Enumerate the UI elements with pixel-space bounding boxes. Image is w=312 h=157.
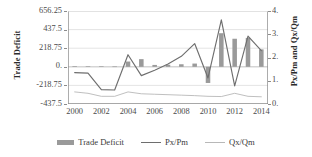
y-axis-left-tick-mark — [64, 85, 67, 86]
legend-bar-swatch — [57, 140, 74, 145]
y-axis-right-tick-mark — [268, 58, 271, 59]
y-axis-right-tick-label: 2. — [272, 52, 290, 61]
legend-line-swatch — [141, 142, 161, 143]
y-axis-left-tick-label: 656.25 — [18, 6, 62, 15]
bar — [219, 33, 224, 67]
x-axis-tick-label: 2010 — [200, 107, 217, 116]
bar — [179, 64, 184, 67]
legend-item-label: Qx/Qm — [229, 137, 255, 147]
y-axis-right-title: Px/Pm and Qx/Qm — [289, 0, 299, 103]
bar — [72, 66, 77, 67]
x-axis-tick-label: 2014 — [253, 107, 270, 116]
y-axis-left-tick-mark — [64, 11, 67, 12]
bar — [232, 39, 237, 67]
legend-item-label: Trade Deficit — [78, 137, 124, 147]
x-axis-tick-label: 2004 — [120, 107, 137, 116]
legend-item[interactable]: Trade Deficit — [57, 137, 124, 147]
y-axis-right-tick-mark — [268, 34, 271, 35]
y-axis-right-tick-mark — [268, 81, 271, 82]
bar — [126, 62, 131, 67]
bar — [152, 65, 157, 67]
y-axis-left-tick-label: 437.5 — [18, 24, 62, 33]
y-axis-right-tick-label: 1. — [272, 75, 290, 84]
bar — [192, 64, 197, 67]
x-axis-tick-label: 2006 — [146, 107, 163, 116]
bar — [112, 66, 117, 67]
bar-series — [72, 33, 263, 83]
chart-container: Trade Deficit Px/Pm and Qx/Qm 656.25437.… — [0, 0, 312, 157]
y-axis-right-tick-label: 3. — [272, 29, 290, 38]
plot-area — [68, 11, 268, 104]
bar — [139, 59, 144, 67]
chart-legend: Trade DeficitPx/PmQx/Qm — [0, 133, 312, 151]
bar — [99, 66, 104, 67]
y-axis-left-tick-label: 0. — [18, 61, 62, 70]
legend-item-label: Px/Pm — [165, 137, 188, 147]
y-axis-left-tick-label: -218.75 — [18, 80, 62, 89]
x-axis-ticks: 20002002200420062008201020122014 — [0, 104, 312, 120]
legend-item[interactable]: Qx/Qm — [205, 137, 255, 147]
line-series — [75, 92, 262, 97]
legend-item[interactable]: Px/Pm — [141, 137, 188, 147]
y-axis-left-tick-mark — [64, 48, 67, 49]
x-axis-tick-label: 2002 — [93, 107, 110, 116]
y-axis-right-tick-label: 4. — [272, 6, 290, 15]
x-axis-tick-label: 2008 — [173, 107, 190, 116]
plot-svg — [68, 11, 268, 104]
y-axis-left-tick-mark — [64, 30, 67, 31]
y-axis-right-tick-mark — [268, 11, 271, 12]
legend-line-swatch — [205, 142, 225, 143]
x-axis-tick-label: 2000 — [66, 107, 83, 116]
y-axis-left-tick-label: 218.75 — [18, 43, 62, 52]
bar — [86, 66, 91, 67]
bar — [259, 49, 264, 66]
y-axis-left-tick-mark — [64, 67, 67, 68]
x-axis-tick-label: 2012 — [226, 107, 243, 116]
